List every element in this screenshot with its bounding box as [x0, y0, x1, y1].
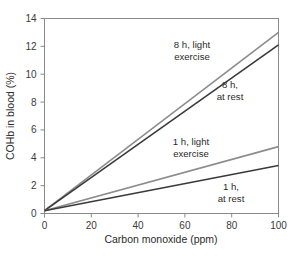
x-tick-label: 20 — [86, 220, 98, 231]
y-tick-label: 6 — [31, 124, 37, 135]
y-tick-label: 12 — [25, 41, 37, 52]
x-tick-label: 60 — [179, 220, 191, 231]
series-lines-group — [45, 32, 279, 210]
cohb-vs-carbon-monoxide-line-chart: 02468101214 020406080100 Carbon monoxide… — [0, 0, 301, 259]
x-axis-tick-labels: 020406080100 — [42, 220, 288, 231]
y-tick-label: 10 — [25, 69, 37, 80]
y-tick-label: 2 — [31, 180, 37, 191]
series-label-8h-light-exercise-line2: exercise — [174, 51, 210, 62]
series-line — [45, 45, 279, 211]
series-label-1h-light-exercise-line2: exercise — [173, 148, 209, 159]
x-tick-label: 80 — [226, 220, 238, 231]
x-axis-title: Carbon monoxide (ppm) — [104, 233, 217, 245]
y-axis-title: COHb in blood (%) — [4, 72, 16, 160]
x-axis-ticks — [45, 214, 279, 218]
x-tick-label: 0 — [42, 220, 48, 231]
series-line — [45, 32, 279, 210]
y-axis-ticks — [41, 19, 45, 214]
series-label-1h-at-rest-line2: at rest — [218, 193, 245, 204]
series-label-8h-at-rest-line1: 8 h, — [222, 79, 238, 90]
y-axis-tick-labels: 02468101214 — [25, 13, 37, 219]
y-tick-label: 14 — [25, 13, 37, 24]
series-label-8h-light-exercise-line1: 8 h, light — [174, 39, 211, 50]
y-tick-label: 0 — [31, 208, 37, 219]
series-label-8h-at-rest-line2: at rest — [217, 91, 244, 102]
x-tick-label: 40 — [133, 220, 145, 231]
series-label-1h-light-exercise-line1: 1 h, light — [173, 136, 210, 147]
series-label-1h-at-rest-line1: 1 h, — [223, 181, 239, 192]
y-tick-label: 4 — [31, 152, 37, 163]
y-tick-label: 8 — [31, 97, 37, 108]
chart-figure: 02468101214 020406080100 Carbon monoxide… — [0, 0, 301, 259]
x-tick-label: 100 — [270, 220, 287, 231]
